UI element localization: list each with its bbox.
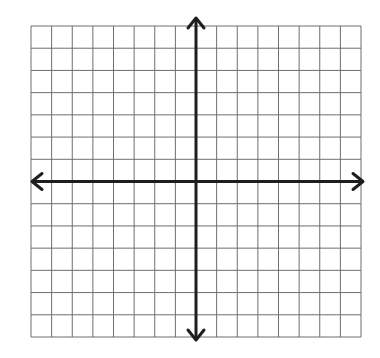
- coordinate-grid-svg: [0, 0, 380, 358]
- coordinate-plane: [0, 0, 380, 358]
- axes: [32, 18, 363, 340]
